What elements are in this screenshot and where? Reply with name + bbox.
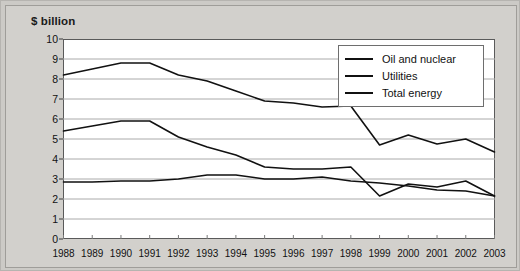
x-axis-tick-label: 1991: [139, 248, 161, 259]
x-axis-tick-label: 2002: [455, 248, 477, 259]
x-axis-tick-label: 1998: [340, 248, 362, 259]
x-axis-tick-label: 2000: [397, 248, 419, 259]
chart-figure-panel: $ billion 012345678910 19881989199019911…: [5, 5, 517, 268]
chart-figure: $ billion 012345678910 19881989199019911…: [0, 0, 520, 271]
x-axis-tick-label: 2001: [426, 248, 448, 259]
y-axis-tick-label: 7: [28, 93, 58, 105]
y-axis-tick-label: 10: [28, 33, 58, 45]
legend-item: Total energy: [345, 84, 477, 101]
y-axis-tick-label: 9: [28, 53, 58, 65]
x-axis-tick-label: 1995: [254, 248, 276, 259]
series-line: [64, 121, 495, 196]
legend-item: Utilities: [345, 67, 477, 84]
chart-title: $ billion: [31, 15, 75, 27]
x-axis-tick-label: 1996: [282, 248, 304, 259]
x-axis-tick-label: 1997: [311, 248, 333, 259]
legend-line-swatch: [345, 75, 373, 77]
legend-line-swatch: [345, 92, 373, 94]
x-axis-tick-label: 1993: [196, 248, 218, 259]
y-axis-tick-label: 4: [28, 153, 58, 165]
y-axis-tick-label: 6: [28, 113, 58, 125]
x-axis-tick-label: 1999: [368, 248, 390, 259]
x-axis-tick-label: 1990: [110, 248, 132, 259]
legend-item-label: Total energy: [382, 87, 442, 99]
y-axis-tick-label: 1: [28, 213, 58, 225]
legend-item-label: Oil and nuclear: [382, 53, 456, 65]
y-axis-tick-label: 8: [28, 73, 58, 85]
legend-line-swatch: [345, 58, 373, 60]
x-axis-tick-label: 1988: [52, 248, 74, 259]
x-axis-tick-label: 1992: [167, 248, 189, 259]
x-axis-tick-label: 2003: [483, 248, 505, 259]
y-axis-tick-label: 5: [28, 133, 58, 145]
x-axis-tick-label: 1994: [225, 248, 247, 259]
x-axis-tick-labels: 1988198919901991199219931994199519961997…: [63, 248, 495, 264]
legend-item-label: Utilities: [382, 70, 417, 82]
y-axis-tick-labels: 012345678910: [26, 39, 58, 239]
y-axis-tick-label: 2: [28, 193, 58, 205]
chart-legend: Oil and nuclearUtilitiesTotal energy: [338, 45, 484, 107]
y-axis-tick-label: 3: [28, 173, 58, 185]
y-axis-tick-label: 0: [28, 233, 58, 245]
legend-item: Oil and nuclear: [345, 50, 477, 67]
x-axis-tick-label: 1989: [81, 248, 103, 259]
